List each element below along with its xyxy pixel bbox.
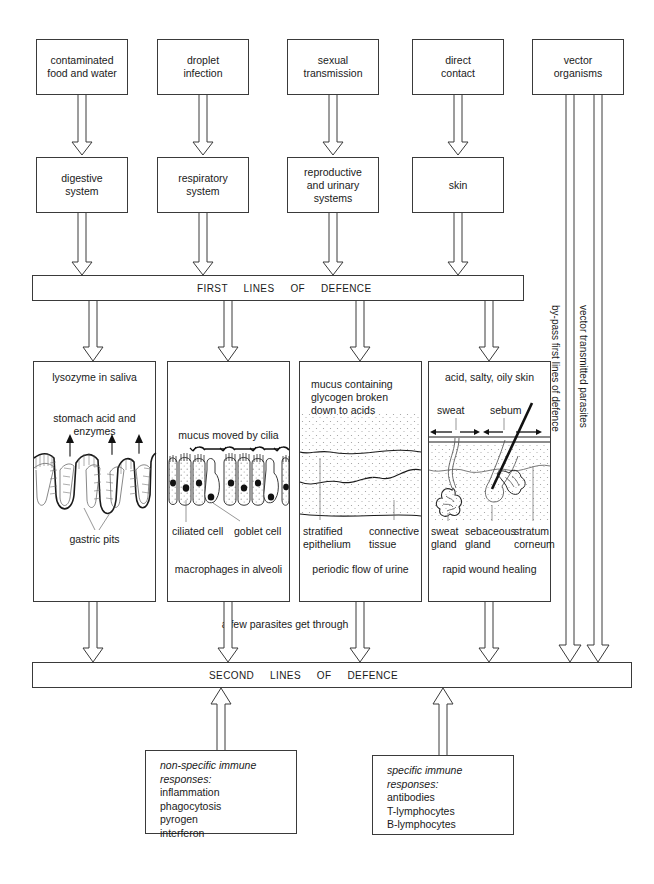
non-specific-item: interferon xyxy=(160,827,296,841)
immune-box-non-specific[interactable]: non-specific immune responses: inflammat… xyxy=(145,750,297,834)
sweat-arrow-label: sweat xyxy=(437,404,464,417)
connective-tissue-label: connective tissue xyxy=(369,525,419,551)
entry-box-label: vector organisms xyxy=(550,54,606,80)
entry-box-label: droplet infection xyxy=(179,54,226,80)
arrow-contact-to-skin xyxy=(448,95,468,155)
sweat-gland-label: sweat gland xyxy=(431,525,458,551)
immune-box-specific[interactable]: specific immune responses: antibodies T-… xyxy=(372,755,514,835)
entry-box-vector-organisms[interactable]: vector organisms xyxy=(532,39,624,95)
second-lines-of-defence-label: SECOND LINES OF DEFENCE xyxy=(209,670,398,681)
bypass-first-lines-label: by-pass first lines of defence xyxy=(549,305,561,432)
arrow-sexual-to-reproductive xyxy=(323,95,343,155)
sebum-arrow-label: sebum xyxy=(490,404,522,417)
goblet-cell-label: goblet cell xyxy=(234,525,281,538)
entry-box-direct-contact[interactable]: direct contact xyxy=(412,39,504,95)
arrow-non-specific-up xyxy=(211,688,231,750)
arrow-panel2-to-second-bar xyxy=(218,602,238,662)
stratified-epithelium-label: stratified epithelium xyxy=(303,525,351,551)
wound-healing-caption: rapid wound healing xyxy=(428,563,551,576)
non-specific-item: inflammation xyxy=(160,786,296,800)
urine-flow-caption: periodic flow of urine xyxy=(299,563,422,576)
stratum-corneum-label: stratum corneum xyxy=(514,525,555,551)
non-specific-item: pyrogen xyxy=(160,813,296,827)
system-box-reproductive-urinary-systems[interactable]: reproductive and urinary systems xyxy=(287,157,379,213)
diagram-canvas: contaminated food and water droplet infe… xyxy=(0,0,654,884)
arrow-first-bar-to-panel2 xyxy=(218,301,238,361)
arrow-panel4-to-second-bar xyxy=(479,602,499,662)
line-vector-transmitted-parasites xyxy=(587,95,609,662)
respiratory-second-caption: mucus moved by cilia xyxy=(167,429,290,442)
arrow-skin-to-first-bar xyxy=(448,213,468,275)
system-box-respiratory-system[interactable]: respiratory system xyxy=(157,157,249,213)
system-box-label: digestive system xyxy=(57,172,106,198)
entry-box-label: contaminated food and water xyxy=(43,54,120,80)
non-specific-heading: non-specific immune responses: xyxy=(160,759,296,786)
non-specific-item: phagocytosis xyxy=(160,800,296,814)
system-box-skin[interactable]: skin xyxy=(412,157,504,213)
ciliated-cell-label: ciliated cell xyxy=(172,525,223,538)
system-box-label: reproductive and urinary systems xyxy=(300,166,366,205)
arrow-first-bar-to-panel1 xyxy=(83,301,103,361)
specific-heading: specific immune responses: xyxy=(387,764,513,791)
first-lines-of-defence-bar[interactable]: FIRST LINES OF DEFENCE xyxy=(32,275,524,301)
specific-item: antibodies xyxy=(387,791,513,805)
gastric-pits-label: gastric pits xyxy=(33,533,156,546)
system-box-digestive-system[interactable]: digestive system xyxy=(36,157,128,213)
system-box-label: skin xyxy=(445,179,472,192)
entry-box-contaminated-food-water[interactable]: contaminated food and water xyxy=(36,39,128,95)
urinary-top-caption: mucus containing glycogen broken down to… xyxy=(311,378,393,417)
arrow-droplet-to-respiratory xyxy=(193,95,213,155)
sebaceous-gland-label: sebaceous gland xyxy=(465,525,516,551)
arrow-panel1-to-second-bar xyxy=(83,602,103,662)
macrophages-caption: macrophages in alveoli xyxy=(167,563,290,576)
system-box-label: respiratory system xyxy=(174,172,232,198)
skin-top-caption: acid, salty, oily skin xyxy=(428,371,551,384)
second-lines-of-defence-bar[interactable]: SECOND LINES OF DEFENCE xyxy=(32,662,632,688)
entry-box-label: sexual transmission xyxy=(300,54,367,80)
arrow-first-bar-to-panel4 xyxy=(479,301,499,361)
vector-transmitted-parasites-label: vector transmitted parasites xyxy=(577,305,589,428)
arrow-reproductive-to-first-bar xyxy=(323,213,343,275)
specific-item: T-lymphocytes xyxy=(387,805,513,819)
arrow-food-to-digestive xyxy=(72,95,92,155)
arrow-digestive-to-first-bar xyxy=(72,213,92,275)
digestive-top-caption: lysozyme in saliva xyxy=(33,371,156,384)
specific-item: B-lymphocytes xyxy=(387,818,513,832)
digestive-second-caption: stomach acid and enzymes xyxy=(33,412,156,438)
first-lines-of-defence-label: FIRST LINES OF DEFENCE xyxy=(197,283,372,294)
entry-box-droplet-infection[interactable]: droplet infection xyxy=(157,39,249,95)
arrow-respiratory-to-first-bar xyxy=(193,213,213,275)
a-few-parasites-note: a few parasites get through xyxy=(160,618,410,631)
entry-box-label: direct contact xyxy=(437,54,479,80)
entry-box-sexual-transmission[interactable]: sexual transmission xyxy=(287,39,379,95)
arrow-specific-up xyxy=(433,688,453,755)
defence-panel-digestive[interactable] xyxy=(33,361,156,602)
arrow-first-bar-to-panel3 xyxy=(350,301,370,361)
arrow-panel3-to-second-bar xyxy=(350,602,370,662)
